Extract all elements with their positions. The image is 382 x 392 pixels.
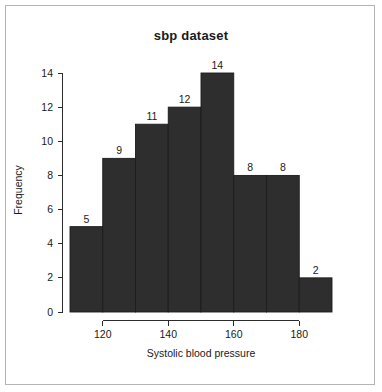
histogram-bar — [234, 175, 267, 312]
histogram-plot: 02468101214 120140160180 59111214882 Sys… — [0, 0, 382, 392]
y-axis-tick-label: 0 — [47, 306, 53, 318]
bar-value-label: 2 — [313, 264, 319, 276]
histogram-svg: 02468101214 120140160180 59111214882 Sys… — [0, 0, 382, 392]
x-axis: 120140160180 — [94, 321, 308, 340]
y-axis-tick-label: 2 — [47, 271, 53, 283]
bar-value-label: 12 — [179, 93, 191, 105]
y-axis-tick-label: 14 — [41, 67, 53, 79]
y-axis: 02468101214 — [41, 67, 62, 318]
bars-group — [70, 73, 332, 312]
bar-value-label: 14 — [212, 59, 224, 71]
bar-value-label: 8 — [247, 161, 253, 173]
histogram-bar — [136, 124, 169, 312]
bar-value-label: 8 — [280, 161, 286, 173]
x-axis-tick-label: 140 — [159, 328, 177, 340]
bar-value-label: 5 — [83, 213, 89, 225]
y-axis-tick-label: 8 — [47, 169, 53, 181]
x-axis-tick-label: 120 — [94, 328, 112, 340]
y-axis-tick-label: 10 — [41, 135, 53, 147]
y-axis-title: Frequency — [12, 164, 24, 214]
bar-value-label: 11 — [146, 110, 157, 122]
y-axis-tick-label: 6 — [47, 203, 53, 215]
histogram-bar — [201, 73, 234, 312]
y-axis-tick-label: 4 — [47, 237, 53, 249]
chart-page: sbp dataset 02468101214 120140160180 591… — [0, 0, 382, 392]
histogram-bar — [267, 175, 300, 312]
histogram-bar — [70, 227, 103, 312]
x-axis-title: Systolic blood pressure — [147, 347, 256, 359]
histogram-bar — [103, 158, 136, 312]
histogram-bar — [168, 107, 201, 312]
histogram-bar — [299, 278, 332, 312]
x-axis-tick-label: 180 — [290, 328, 308, 340]
x-axis-tick-label: 160 — [225, 328, 243, 340]
y-axis-tick-label: 12 — [41, 101, 53, 113]
bar-value-label: 9 — [116, 144, 122, 156]
